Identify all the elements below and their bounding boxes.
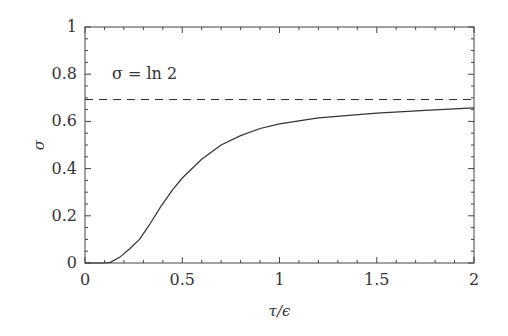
y-tick-label: 0: [67, 253, 77, 272]
chart-figure: 00.511.5200.20.40.60.81τ/ϵσσ = ln 2: [0, 0, 508, 336]
annotation-label: σ = ln 2: [112, 64, 177, 83]
y-tick-label: 0.4: [52, 159, 77, 178]
x-tick-label: 2: [469, 270, 479, 289]
y-tick-label: 0.6: [52, 111, 77, 130]
plot-frame: [85, 27, 474, 263]
x-tick-label: 1: [274, 270, 284, 289]
line-chart: 00.511.5200.20.40.60.81τ/ϵσσ = ln 2: [0, 0, 508, 336]
y-axis-label: σ: [30, 139, 48, 150]
data-curve: [85, 108, 474, 263]
y-tick-label: 0.2: [52, 206, 77, 225]
x-tick-label: 1.5: [364, 270, 389, 289]
x-tick-label: 0.5: [170, 270, 195, 289]
y-tick-label: 1: [67, 17, 77, 36]
y-tick-label: 0.8: [52, 64, 77, 83]
x-tick-label: 0: [80, 270, 90, 289]
x-axis-label: τ/ϵ: [269, 302, 291, 320]
